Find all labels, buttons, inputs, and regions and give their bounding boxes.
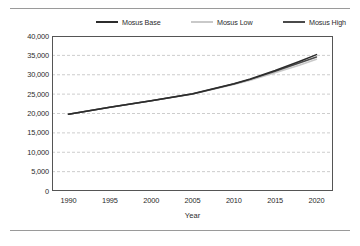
legend-swatch-mosus-high xyxy=(283,21,305,23)
plot-svg xyxy=(52,36,333,191)
y-tick-label: 20,000 xyxy=(8,109,49,118)
x-tick-label: 1995 xyxy=(92,196,128,206)
x-tick-label: 2020 xyxy=(298,196,334,206)
y-tick-label: 15,000 xyxy=(8,128,49,137)
y-tick-label: 40,000 xyxy=(8,32,49,41)
gridlines xyxy=(52,55,333,171)
x-tick-label: 2015 xyxy=(257,196,293,206)
y-axis-tick-labels: 05,00010,00015,00020,00025,00030,00035,0… xyxy=(8,30,49,197)
series-line xyxy=(69,55,317,115)
y-tick-label: 5,000 xyxy=(8,167,49,176)
x-tick-label: 2000 xyxy=(133,196,169,206)
y-tick-label: 0 xyxy=(8,187,49,196)
x-tick-label: 1990 xyxy=(51,196,87,206)
y-tick-label: 35,000 xyxy=(8,51,49,60)
legend-swatch-mosus-low xyxy=(191,21,213,23)
series-line xyxy=(69,59,317,114)
series-line xyxy=(69,57,317,114)
x-axis-title: Year xyxy=(52,211,333,221)
legend-item-mosus-base: Mosus Base xyxy=(96,18,161,27)
plot-area xyxy=(52,36,333,191)
chart-legend: Mosus Base Mosus Low Mosus High xyxy=(96,16,346,28)
x-tick-label: 2010 xyxy=(216,196,252,206)
y-tick-label: 30,000 xyxy=(8,70,49,79)
legend-swatch-mosus-base xyxy=(96,21,118,23)
legend-item-mosus-high: Mosus High xyxy=(283,18,346,27)
y-tick-label: 25,000 xyxy=(8,90,49,99)
legend-label-mosus-high: Mosus High xyxy=(309,18,346,27)
legend-item-mosus-low: Mosus Low xyxy=(191,18,252,27)
top-divider-rule xyxy=(10,8,350,9)
data-series xyxy=(69,55,317,115)
x-axis-tick-labels: 1990199520002005201020152020 xyxy=(52,196,333,208)
chart-figure: Mosus Base Mosus Low Mosus High 05,00010… xyxy=(0,0,360,246)
x-tick-label: 2005 xyxy=(175,196,211,206)
legend-label-mosus-low: Mosus Low xyxy=(217,18,252,27)
legend-label-mosus-base: Mosus Base xyxy=(122,18,161,27)
bottom-divider-rule xyxy=(10,230,350,231)
y-tick-label: 10,000 xyxy=(8,148,49,157)
